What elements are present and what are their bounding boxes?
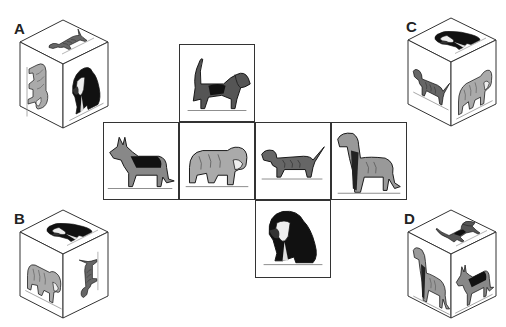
cube-option-d[interactable] (408, 210, 498, 320)
beagle-icon (180, 45, 254, 121)
dachshund-icon (256, 123, 330, 199)
net-square-bulldog (179, 122, 255, 200)
cube-option-c[interactable] (408, 18, 498, 128)
net-square-dachshund (255, 122, 331, 200)
basset-hound-icon (256, 201, 330, 277)
great-dane-icon (332, 123, 406, 199)
net-square-basset-hound (255, 200, 331, 278)
german-shepherd-icon (104, 123, 178, 199)
net-square-german-shepherd (103, 122, 179, 200)
net-square-beagle (179, 44, 255, 122)
net-square-great-dane (331, 122, 407, 200)
cube-option-b[interactable] (20, 210, 110, 320)
bulldog-icon (180, 123, 254, 199)
cube-option-a[interactable] (20, 20, 110, 130)
